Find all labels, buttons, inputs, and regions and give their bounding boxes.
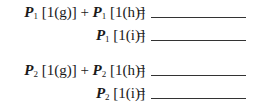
subscript: 2 bbox=[105, 92, 110, 102]
equation-row-3: P2 [1(g)] + P2 [1(h)] = bbox=[0, 60, 267, 80]
answer-blank[interactable] bbox=[151, 75, 246, 76]
subscript: 1 bbox=[102, 11, 107, 21]
plus-operator: + bbox=[80, 62, 88, 78]
equation-row-1: P1 [1(g)] + P1 [1(h)] = bbox=[0, 2, 267, 22]
answer-blank[interactable] bbox=[151, 98, 246, 99]
equals-sign: = bbox=[137, 83, 145, 103]
var: P bbox=[24, 62, 33, 78]
equation-row-4: P2 [1(i)] = bbox=[0, 83, 267, 103]
var: P bbox=[24, 4, 33, 20]
var: P bbox=[93, 4, 102, 20]
equals-sign: = bbox=[137, 25, 145, 45]
equation-lhs: P2 [1(g)] + P2 [1(h)] bbox=[24, 60, 145, 84]
answer-blank[interactable] bbox=[151, 17, 246, 18]
subscript: 2 bbox=[33, 69, 38, 79]
var: P bbox=[96, 27, 105, 43]
equation-row-2: P1 [1(i)] = bbox=[0, 25, 267, 45]
arg: [1(g)] bbox=[42, 4, 77, 20]
arg: [1(g)] bbox=[42, 62, 77, 78]
equals-sign: = bbox=[137, 60, 145, 80]
equals-sign: = bbox=[137, 2, 145, 22]
plus-operator: + bbox=[80, 4, 88, 20]
equation-lhs: P1 [1(g)] + P1 [1(h)] bbox=[24, 2, 145, 26]
subscript: 1 bbox=[33, 11, 38, 21]
answer-blank[interactable] bbox=[151, 40, 246, 41]
subscript: 2 bbox=[102, 69, 107, 79]
subscript: 1 bbox=[105, 34, 110, 44]
var: P bbox=[93, 62, 102, 78]
var: P bbox=[96, 85, 105, 101]
